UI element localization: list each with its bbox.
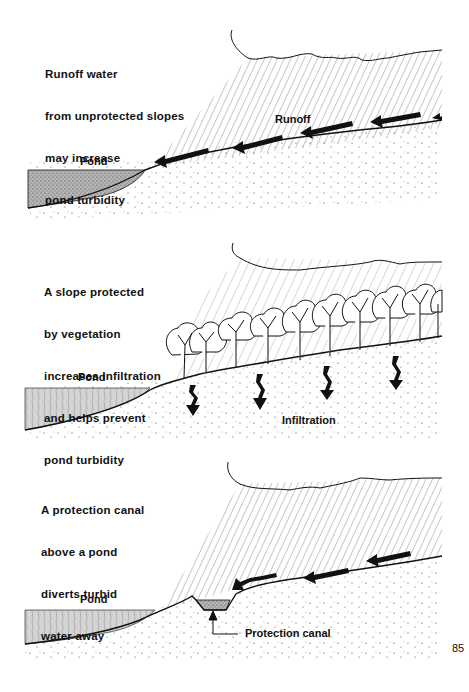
caption-line: may increase bbox=[45, 151, 184, 165]
caption-line: from unprotected slopes bbox=[45, 109, 184, 123]
caption-line: by vegetation bbox=[44, 327, 161, 341]
caption-canal: A protection canal above a pond diverts … bbox=[41, 475, 145, 657]
caption-line: Runoff water bbox=[45, 67, 184, 81]
protection-canal-label: Protection canal bbox=[245, 627, 331, 639]
caption-line: and helps prevent bbox=[44, 411, 161, 425]
caption-line: A protection canal bbox=[41, 503, 145, 517]
caption-line: pond turbidity bbox=[45, 193, 184, 207]
caption-line: water away bbox=[41, 629, 145, 643]
caption-runoff: Runoff water from unprotected slopes may… bbox=[45, 39, 184, 221]
caption-vegetation: A slope protected by vegetation increase… bbox=[44, 257, 161, 481]
pond-label: Pond bbox=[78, 371, 106, 383]
caption-line: above a pond bbox=[41, 545, 145, 559]
pond-label: Pond bbox=[80, 593, 108, 605]
caption-line: pond turbidity bbox=[44, 453, 161, 467]
pond-label: Pond bbox=[80, 155, 108, 167]
page-number: 85 bbox=[452, 642, 464, 654]
caption-line: A slope protected bbox=[44, 285, 161, 299]
runoff-label: Runoff bbox=[275, 113, 310, 125]
infiltration-label: Infiltration bbox=[282, 414, 336, 426]
